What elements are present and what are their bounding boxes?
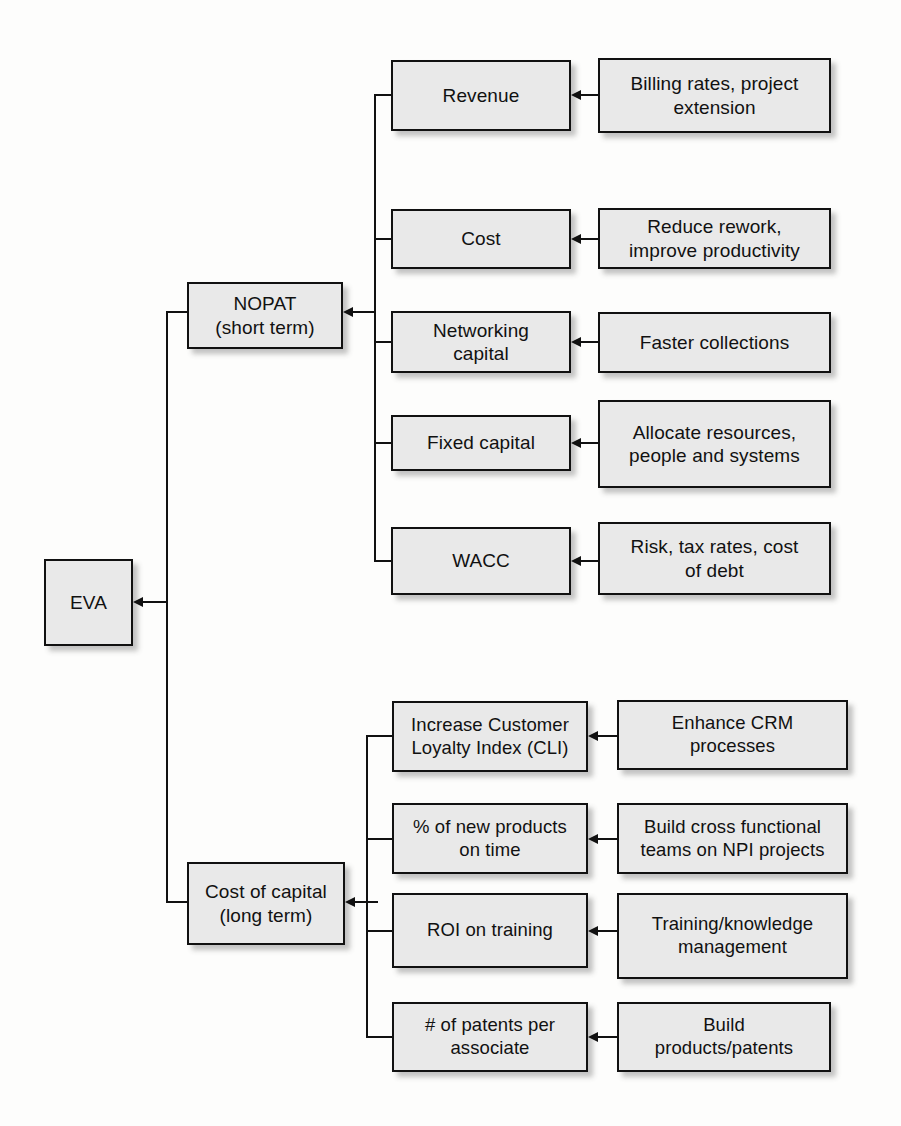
arrowhead-roi-on-training [588,926,598,936]
connector-new-products-initiative [595,838,619,840]
connector-stub-revenue [374,94,392,96]
connector-stub-roi-on-training [366,930,393,932]
node-networking-capital[interactable]: Networking capital [391,311,571,373]
node-initiative-training-knowledge[interactable]: Training/knowledge management [617,893,848,979]
diagram-canvas: EVA NOPAT (short term) Revenue Cost Netw… [0,0,901,1126]
connector-fixed-capital-initiative [578,442,600,444]
arrowhead-revenue [571,90,581,100]
node-cost[interactable]: Cost [391,209,571,269]
connector-stub-cost [374,238,392,240]
node-initiative-cross-functional-teams[interactable]: Build cross functional teams on NPI proj… [617,803,848,874]
connector-roi-initiative [595,930,619,932]
arrowhead-cli [588,731,598,741]
node-initiative-enhance-crm[interactable]: Enhance CRM processes [617,700,848,770]
connector-cost-of-capital-subtrunk [352,901,378,903]
node-revenue[interactable]: Revenue [391,60,571,131]
connector-networking-capital-initiative [578,341,600,343]
connector-stub-wacc [374,560,392,562]
connector-revenue-initiative [578,94,600,96]
connector-cost-of-capital-subtrunk-vertical [366,736,368,1038]
node-eva[interactable]: EVA [44,559,133,646]
arrowhead-eva [133,597,143,607]
node-initiative-faster-collections[interactable]: Faster collections [598,312,831,373]
node-patents-per-associate[interactable]: # of patents per associate [392,1002,588,1072]
connector-trunk-nopat [166,311,188,313]
connector-nopat-subtrunk [350,311,376,313]
node-wacc[interactable]: WACC [391,527,571,595]
arrowhead-fixed-capital [571,438,581,448]
node-roi-on-training[interactable]: ROI on training [392,893,588,968]
connector-stub-patents-per-associate [366,1036,393,1038]
node-cost-of-capital[interactable]: Cost of capital (long term) [187,862,345,945]
connector-trunk-cost-of-capital [166,901,188,903]
node-cli[interactable]: Increase Customer Loyalty Index (CLI) [392,701,588,772]
node-initiative-build-products-patents[interactable]: Build products/patents [617,1002,831,1072]
arrowhead-networking-capital [571,337,581,347]
arrowhead-cost [571,234,581,244]
arrowhead-new-products-on-time [588,834,598,844]
arrowhead-cost-of-capital [345,897,355,907]
connector-eva-trunk [140,601,168,603]
node-fixed-capital[interactable]: Fixed capital [391,415,571,471]
node-new-products-on-time[interactable]: % of new products on time [392,803,588,874]
connector-patents-initiative [595,1036,619,1038]
arrowhead-wacc [571,556,581,566]
arrowhead-nopat [343,307,353,317]
connector-stub-new-products-on-time [366,838,393,840]
connector-stub-fixed-capital [374,442,392,444]
node-nopat[interactable]: NOPAT (short term) [187,282,343,349]
node-initiative-reduce-rework[interactable]: Reduce rework, improve productivity [598,208,831,269]
arrowhead-patents-per-associate [588,1032,598,1042]
node-initiative-billing-rates[interactable]: Billing rates, project extension [598,58,831,133]
connector-stub-cli [366,735,393,737]
connector-cli-initiative [595,735,619,737]
connector-cost-initiative [578,238,600,240]
connector-trunk-vertical [166,312,168,903]
node-initiative-risk-tax-rates[interactable]: Risk, tax rates, cost of debt [598,522,831,595]
node-initiative-allocate-resources[interactable]: Allocate resources, people and systems [598,400,831,488]
connector-stub-networking-capital [374,341,392,343]
connector-wacc-initiative [578,560,600,562]
connector-nopat-subtrunk-vertical [374,95,376,562]
